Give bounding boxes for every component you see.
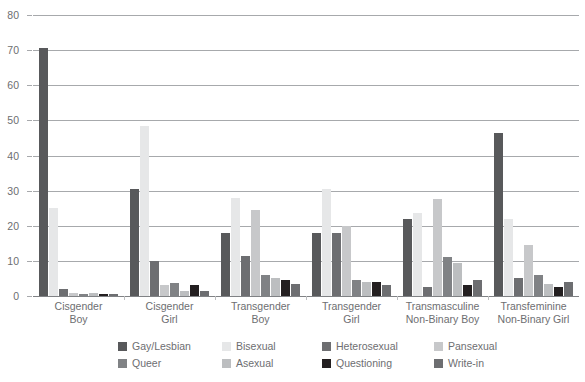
bar[interactable] (59, 289, 68, 296)
y-axis-tick-mark (27, 261, 32, 262)
bar[interactable] (160, 285, 169, 296)
bar[interactable] (524, 245, 533, 296)
legend-swatch (118, 359, 127, 368)
bar[interactable] (463, 285, 472, 296)
bar-slot (241, 15, 250, 296)
bar-slot (453, 15, 462, 296)
bar[interactable] (39, 48, 48, 296)
bar-group (33, 15, 124, 296)
x-axis-category-label: CisgenderGirl (124, 300, 215, 326)
grouped-bar-chart: 01020304050607080 CisgenderBoyCisgenderG… (0, 0, 585, 382)
bar[interactable] (271, 278, 280, 296)
x-label-line-1: Transgender (231, 300, 290, 312)
bar[interactable] (99, 294, 108, 296)
bar-group (306, 15, 397, 296)
bar-groups (33, 15, 579, 296)
bar[interactable] (362, 282, 371, 296)
bar[interactable] (372, 282, 381, 296)
bar[interactable] (79, 294, 88, 296)
bar[interactable] (544, 284, 553, 296)
bar[interactable] (89, 293, 98, 296)
bar[interactable] (423, 287, 432, 296)
bar[interactable] (312, 233, 321, 296)
bar[interactable] (241, 256, 250, 296)
y-axis-tick-label: 40 (0, 151, 19, 161)
bar[interactable] (554, 287, 563, 296)
legend-item[interactable]: Questioning (322, 357, 434, 369)
legend-item[interactable]: Gay/Lesbian (118, 340, 222, 352)
bar-slot (190, 15, 199, 296)
legend-item[interactable]: Pansexual (434, 340, 518, 352)
bar[interactable] (332, 233, 341, 296)
legend-row: QueerAsexualQuestioningWrite-in (118, 357, 518, 369)
bar[interactable] (291, 284, 300, 296)
x-label-line-2: Non-Binary Girl (488, 313, 579, 326)
bar-slot (89, 15, 98, 296)
bar[interactable] (231, 198, 240, 296)
bar[interactable] (150, 261, 159, 296)
x-label-line-2: Non-Binary Boy (397, 313, 488, 326)
bar[interactable] (281, 280, 290, 296)
bar-slot (544, 15, 553, 296)
bar-slot (221, 15, 230, 296)
bar[interactable] (109, 294, 118, 296)
bar-slot (130, 15, 139, 296)
bar[interactable] (382, 285, 391, 296)
bar[interactable] (221, 233, 230, 296)
bar[interactable] (564, 282, 573, 296)
y-axis-tick-mark (27, 226, 32, 227)
bar[interactable] (443, 257, 452, 296)
bar[interactable] (352, 280, 361, 296)
bar[interactable] (49, 208, 58, 296)
bar[interactable] (494, 133, 503, 296)
bar-slot (271, 15, 280, 296)
bar[interactable] (251, 210, 260, 296)
bar-slot (49, 15, 58, 296)
y-axis-tick-label: 60 (0, 80, 19, 90)
legend-swatch (322, 342, 331, 351)
bar-slot (443, 15, 452, 296)
bar[interactable] (413, 213, 422, 296)
legend-label: Pansexual (448, 340, 497, 352)
bar[interactable] (534, 275, 543, 296)
bar[interactable] (180, 291, 189, 296)
bar[interactable] (514, 278, 523, 296)
bar-slot (231, 15, 240, 296)
bar[interactable] (453, 263, 462, 296)
y-axis-tick-mark (27, 15, 32, 16)
legend-label: Queer (132, 357, 161, 369)
bar-slot (109, 15, 118, 296)
bar[interactable] (130, 189, 139, 296)
legend-item[interactable]: Queer (118, 357, 222, 369)
bar[interactable] (473, 280, 482, 296)
bar-slot (79, 15, 88, 296)
legend-item[interactable]: Heterosexual (322, 340, 434, 352)
legend-swatch (118, 342, 127, 351)
legend-item[interactable]: Bisexual (222, 340, 322, 352)
legend-label: Questioning (336, 357, 392, 369)
bar-slot (99, 15, 108, 296)
legend-item[interactable]: Asexual (222, 357, 322, 369)
x-axis-category-label: TransmasculineNon-Binary Boy (397, 300, 488, 326)
bar[interactable] (261, 275, 270, 296)
bar-slot (251, 15, 260, 296)
bar[interactable] (200, 291, 209, 296)
bar[interactable] (433, 199, 442, 296)
bar-slot (59, 15, 68, 296)
bar[interactable] (322, 189, 331, 296)
bar[interactable] (190, 285, 199, 296)
bar[interactable] (342, 226, 351, 296)
bar[interactable] (403, 219, 412, 296)
bar[interactable] (69, 293, 78, 296)
bar[interactable] (140, 126, 149, 296)
bar-slot (494, 15, 503, 296)
legend-item[interactable]: Write-in (434, 357, 518, 369)
bar-slot (423, 15, 432, 296)
bar[interactable] (170, 283, 179, 296)
bar-slot (433, 15, 442, 296)
y-axis-tick-mark (27, 296, 32, 297)
bar-slot (554, 15, 563, 296)
bar[interactable] (504, 219, 513, 296)
bar-group (124, 15, 215, 296)
bar-slot (473, 15, 482, 296)
